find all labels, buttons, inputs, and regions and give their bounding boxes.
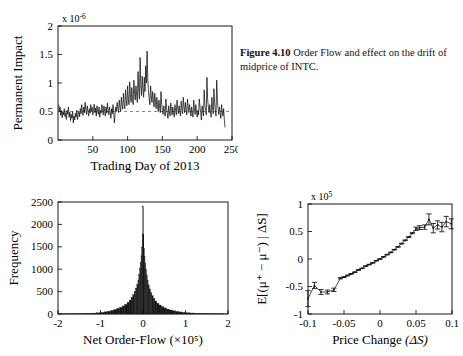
histogram-bar (101, 312, 105, 314)
data-point (432, 227, 434, 229)
data-point (437, 224, 439, 226)
y-tick-label: 1 (298, 198, 304, 210)
orderflow-histogram-plot: 05001000150020002500-2-1012Net Order-Flo… (2, 186, 234, 354)
data-point (343, 276, 345, 278)
histogram-bar (190, 313, 194, 314)
data-point (445, 221, 447, 223)
figure-caption: Figure 4.10 Order Flow and effect on the… (240, 46, 455, 74)
x-axis-label: Price Change (ΔS) (332, 332, 428, 347)
x-tick-label: -1 (96, 317, 105, 329)
data-point (307, 298, 309, 300)
x-axis-label: Net Order-Flow (×10⁵) (83, 332, 203, 347)
data-point (361, 268, 363, 270)
figure-number: Figure 4.10 (240, 47, 291, 58)
y-tick-label: 1500 (31, 240, 54, 252)
y-tick-label: 0 (48, 134, 54, 146)
data-point (376, 260, 378, 262)
histogram-bar (104, 312, 107, 314)
histogram-bar (159, 305, 161, 314)
data-point (372, 262, 374, 264)
x-tick-label: 0.1 (445, 317, 459, 329)
histogram-bar (88, 313, 92, 314)
y-tick-label: 2 (48, 20, 54, 32)
histogram-bar (194, 313, 198, 314)
histogram-bar (114, 310, 117, 314)
histogram-bar (169, 310, 172, 314)
histogram-bar (125, 304, 127, 314)
data-point (358, 269, 360, 271)
x-tick-label: 100 (119, 143, 136, 155)
data-point (365, 265, 367, 267)
price-impact-plot: x 105-1-0.500.51-0.1-0.0500.050.1Price C… (248, 186, 460, 354)
error-bars (305, 214, 453, 307)
histogram-bar (150, 293, 151, 315)
histogram-bar (131, 297, 133, 314)
y-axis-label: Permanent Impact (10, 35, 25, 130)
histogram-bar (96, 313, 100, 314)
data-point (390, 252, 392, 254)
data-point (428, 219, 430, 221)
histogram-bar (111, 310, 114, 314)
histogram-bar (175, 311, 178, 314)
data-point (320, 291, 322, 293)
data-point (340, 277, 342, 279)
y-tick-label: 0 (298, 253, 304, 265)
x-tick-label: 0.05 (406, 317, 426, 329)
histogram-bar (148, 285, 149, 314)
data-point (347, 275, 349, 277)
data-point (386, 254, 388, 256)
chart-orderflow-histogram: 05001000150020002500-2-1012Net Order-Flo… (2, 186, 234, 354)
data-point (379, 258, 381, 260)
data-point (408, 236, 410, 238)
data-point (419, 227, 421, 229)
y-axis-label: Frequency (6, 230, 21, 285)
histogram-bar (134, 292, 135, 314)
histogram-bar (107, 311, 110, 314)
y-tick-label: 1 (48, 77, 54, 89)
permanent-impact-plot: x 10-600.511.5250100150200250Trading Day… (6, 8, 238, 180)
data-point (368, 264, 370, 266)
histogram-bar (157, 303, 159, 314)
x-tick-label: 150 (154, 143, 171, 155)
histogram-bar (164, 308, 167, 314)
histogram-bar (179, 312, 182, 314)
y-axis-exponent: x 105 (311, 190, 333, 203)
y-tick-label: 1000 (31, 263, 54, 275)
histogram-bar (172, 311, 175, 314)
data-point (412, 232, 414, 234)
y-tick-label: -0.5 (286, 280, 304, 292)
y-tick-label: 0.5 (39, 105, 53, 117)
x-tick-label: 0 (377, 317, 383, 329)
histogram-bar (137, 284, 138, 314)
data-point (450, 223, 452, 225)
histogram-bar (117, 308, 120, 314)
x-tick-label: -0.05 (333, 317, 356, 329)
histogram-bar (136, 288, 137, 314)
y-tick-label: 0.5 (289, 225, 303, 237)
chart-permanent-impact: x 10-600.511.5250100150200250Trading Day… (6, 8, 238, 180)
histogram-bar (129, 300, 131, 314)
data-point (314, 285, 316, 287)
x-tick-label: 0 (140, 317, 146, 329)
data-point (424, 226, 426, 228)
x-tick-label: 250 (224, 143, 238, 155)
histogram-bar (161, 307, 164, 314)
x-tick-label: 1 (183, 317, 189, 329)
y-tick-label: 1.5 (39, 48, 53, 60)
histogram-bar (133, 295, 134, 314)
histogram-bar (186, 313, 190, 314)
histogram-bar (182, 312, 186, 314)
x-tick-label: -0.1 (299, 317, 316, 329)
data-point (415, 228, 417, 230)
figure-root: Figure 4.10 Order Flow and effect on the… (0, 0, 463, 356)
data-point (333, 289, 335, 291)
chart-price-impact: x 105-1-0.500.51-0.1-0.0500.050.1Price C… (248, 186, 460, 354)
data-point (327, 291, 329, 293)
histogram-bar (122, 306, 125, 314)
histogram-bar (92, 313, 96, 314)
data-point (383, 256, 385, 258)
histogram-bars (58, 206, 228, 314)
histogram-bar (149, 289, 150, 314)
data-point (394, 249, 396, 251)
histogram-bar (166, 309, 169, 314)
